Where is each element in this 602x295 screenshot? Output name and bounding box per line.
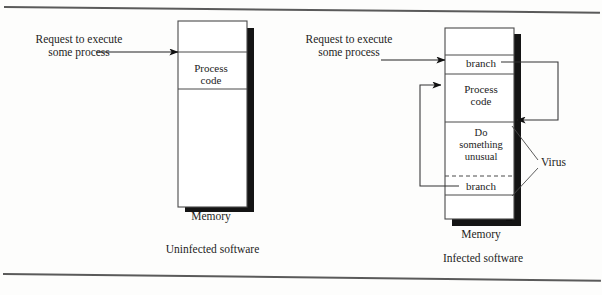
right-request-line2: some process <box>288 46 410 59</box>
payload-line1: Do <box>446 127 516 139</box>
right-block-virus-payload: Do something unusual <box>446 127 516 162</box>
left-process-line2: code <box>180 74 242 86</box>
left-request-label: Request to execute some process <box>18 33 140 59</box>
left-process-line1: Process <box>180 62 242 74</box>
right-block-branch-bottom: branch <box>450 180 512 192</box>
left-memory-shadow-right <box>247 28 254 212</box>
right-process-line1: Process <box>450 83 512 95</box>
right-block-process-code: Process code <box>450 83 512 108</box>
right-panel-caption: Infected software <box>428 252 538 265</box>
figure-page: Request to execute some process Process … <box>0 0 602 295</box>
right-memory-caption: Memory <box>446 228 516 241</box>
payload-line3: unusual <box>446 151 516 163</box>
right-request-label: Request to execute some process <box>288 33 410 59</box>
right-process-line2: code <box>450 95 512 107</box>
right-request-line1: Request to execute <box>306 33 393 45</box>
left-memory-caption: Memory <box>176 210 246 223</box>
left-request-line1: Request to execute <box>36 33 123 45</box>
payload-line2: something <box>446 139 516 151</box>
left-request-line2: some process <box>18 46 140 59</box>
right-block-branch-top: branch <box>450 57 512 69</box>
left-block-process-code: Process code <box>180 62 242 87</box>
left-panel-caption: Uninfected software <box>155 243 270 256</box>
virus-label: Virus <box>541 156 583 169</box>
left-memory-box <box>178 21 247 207</box>
